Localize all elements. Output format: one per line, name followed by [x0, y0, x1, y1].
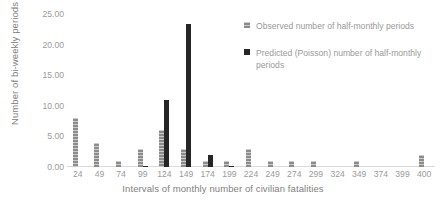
x-axis-tick: 299 [309, 169, 323, 179]
observed-bar [94, 143, 99, 167]
x-axis-tick: 224 [244, 169, 258, 179]
x-axis-tick: 274 [287, 169, 301, 179]
bar-group [154, 14, 176, 167]
y-axis-tick: 0.00 [47, 162, 64, 172]
predicted-bar [164, 100, 169, 167]
x-axis-tick: 124 [157, 169, 171, 179]
y-axis-tick-labels: 0.005.0010.0015.0020.0025.00 [26, 0, 64, 202]
x-axis-tick: 399 [395, 169, 409, 179]
y-axis-tick: 15.00 [42, 70, 64, 80]
x-axis-tick: 374 [374, 169, 388, 179]
x-axis-tick: 99 [138, 169, 148, 179]
bar-group [197, 14, 219, 167]
x-axis-title: Intervals of monthly number of civilian … [0, 183, 446, 194]
legend-item: Observed number of half-monthly periods [244, 20, 444, 32]
observed-bar [116, 161, 121, 167]
observed-swatch-icon [244, 22, 250, 28]
bar-group [132, 14, 154, 167]
observed-bar [419, 155, 424, 167]
y-axis-tick: 20.00 [42, 40, 64, 50]
x-axis-tick: 249 [265, 169, 279, 179]
predicted-bar [208, 155, 213, 167]
observed-bar [289, 161, 294, 167]
y-axis-title: Number of bi-weekly periods [9, 0, 20, 134]
bar-group [67, 14, 89, 167]
x-axis-tick: 324 [330, 169, 344, 179]
bar-group [89, 14, 111, 167]
x-axis-tick: 199 [222, 169, 236, 179]
bar-group [110, 14, 132, 167]
predicted-swatch-icon [244, 49, 250, 55]
observed-bar [354, 161, 359, 167]
predicted-bar [229, 166, 234, 167]
predicted-bar [186, 24, 191, 167]
x-axis-tick: 24 [73, 169, 83, 179]
observed-bar [73, 118, 78, 167]
x-axis-tick-labels: 2449749912414917419922424927429932434937… [67, 169, 435, 183]
x-axis-tick: 74 [116, 169, 126, 179]
x-axis-tick: 174 [201, 169, 215, 179]
y-axis-tick: 5.00 [47, 131, 64, 141]
observed-bar [268, 161, 273, 167]
bar-group [175, 14, 197, 167]
observed-bar [246, 149, 251, 167]
bar-chart: Number of bi-weekly periods 0.005.0010.0… [0, 0, 446, 202]
legend-label: Observed number of half-monthly periods [256, 20, 414, 32]
chart-legend: Observed number of half-monthly periodsP… [244, 20, 444, 86]
legend-item: Predicted (Poisson) number of half-month… [244, 47, 444, 71]
x-axis-tick: 49 [95, 169, 105, 179]
legend-label: Predicted (Poisson) number of half-month… [256, 47, 444, 71]
x-axis-tick: 349 [352, 169, 366, 179]
observed-bar [311, 161, 316, 167]
y-axis-tick: 10.00 [42, 101, 64, 111]
y-axis-tick: 25.00 [42, 9, 64, 19]
bar-group [219, 14, 241, 167]
predicted-bar [143, 166, 148, 167]
observed-bar [138, 149, 143, 167]
x-axis-tick: 400 [417, 169, 431, 179]
x-axis-tick: 149 [179, 169, 193, 179]
